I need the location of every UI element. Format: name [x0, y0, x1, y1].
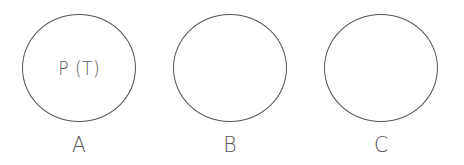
node-a: P (T) [22, 14, 136, 122]
label-a: A [61, 132, 98, 157]
circle-a: P (T) [22, 14, 136, 122]
node-b [173, 14, 287, 122]
circle-b [173, 14, 287, 122]
circle-a-content: P (T) [58, 57, 100, 79]
label-c: C [363, 132, 400, 157]
label-b: B [212, 132, 249, 157]
node-c [324, 14, 438, 122]
diagram-canvas: P (T) A B C [0, 0, 464, 165]
circle-c [324, 14, 438, 122]
